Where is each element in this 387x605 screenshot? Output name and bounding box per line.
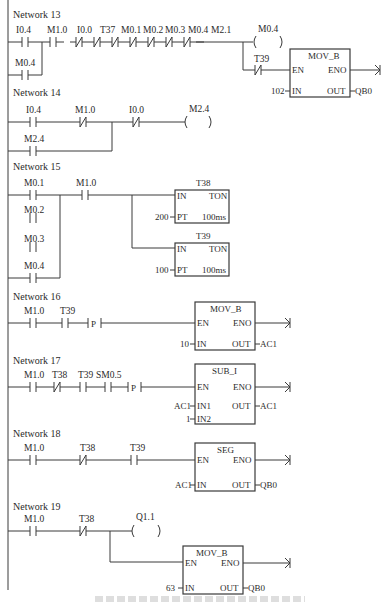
contact-no: T39: [78, 370, 94, 392]
contact-no: T39: [60, 306, 76, 328]
contact-nc: I0.0: [76, 25, 92, 47]
svg-text:IN: IN: [197, 339, 207, 349]
contact-no: M1.0: [76, 178, 97, 200]
coil: M2.4: [185, 104, 211, 128]
svg-text:QB0: QB0: [260, 480, 278, 490]
network-title: Network 17: [13, 355, 61, 366]
svg-text:SM0.5: SM0.5: [96, 370, 122, 380]
contact-no: M1.0: [24, 443, 45, 465]
svg-text:AC1: AC1: [174, 401, 191, 411]
timer-t38: T38 IN TON PT 100ms 200: [155, 178, 229, 223]
contact-no: M1.0: [24, 514, 45, 536]
svg-text:M0.1: M0.1: [24, 178, 45, 188]
svg-text:SUB_I: SUB_I: [212, 366, 237, 376]
svg-text:M1.0: M1.0: [24, 443, 45, 453]
svg-text:TON: TON: [209, 244, 228, 254]
svg-text:IN1: IN1: [197, 401, 211, 411]
contact-nc: T38: [52, 370, 68, 392]
contact-no: M0.4: [24, 261, 45, 283]
svg-text:I0.0: I0.0: [77, 25, 92, 35]
svg-text:M0.1: M0.1: [121, 25, 142, 35]
svg-text:M0.4: M0.4: [15, 58, 36, 68]
network-title: Network 15: [13, 161, 61, 172]
svg-text:T38: T38: [80, 443, 96, 453]
network-13: Network 13 I0.4 M0.4 M1.0 I0.0 T37: [8, 9, 380, 97]
svg-text:I0.4: I0.4: [26, 105, 41, 115]
svg-text:63: 63: [166, 583, 176, 593]
function-block-seg: SEG EN ENO IN OUT AC1 QB0: [175, 443, 290, 491]
svg-text:102: 102: [271, 86, 285, 96]
svg-text:M0.3: M0.3: [24, 234, 45, 244]
svg-text:M1.0: M1.0: [76, 178, 97, 188]
contact-nc: I0.0: [129, 105, 144, 127]
svg-text:OUT: OUT: [220, 583, 239, 593]
svg-text:ENO: ENO: [221, 558, 240, 568]
network-14: Network 14 I0.4 M1.0 I0.0 M2.4 M2.4: [8, 87, 211, 156]
network-title: Network 18: [13, 428, 61, 439]
svg-text:AC1: AC1: [260, 401, 277, 411]
network-title: Network 16: [13, 291, 61, 302]
coil: M0.4: [196, 24, 282, 48]
svg-text:200: 200: [155, 212, 169, 222]
svg-text:EN: EN: [197, 455, 209, 465]
svg-text:TON: TON: [209, 191, 228, 201]
svg-text:Q1.1: Q1.1: [136, 512, 155, 522]
svg-text:IN: IN: [177, 191, 187, 201]
svg-text:M1.0: M1.0: [75, 105, 96, 115]
svg-text:T37: T37: [100, 25, 116, 35]
contact-nc: T39: [254, 54, 270, 75]
contact-no: M0.4: [15, 58, 36, 80]
svg-text:EN: EN: [185, 558, 197, 568]
contact-no: M2.4: [24, 134, 45, 156]
function-block-sub-i: SUB_I EN ENO IN1 IN2 OUT AC1 1 AC1: [174, 364, 290, 424]
contact-no: M0.2: [24, 205, 45, 223]
svg-text:OUT: OUT: [327, 86, 346, 96]
contact-no: M0.3: [24, 234, 45, 252]
timer-t39: T39 IN TON PT 100ms 100: [155, 231, 229, 276]
svg-text:ENO: ENO: [328, 65, 347, 75]
contact-no: M1.0: [24, 370, 45, 392]
contact-no: SM0.5: [96, 370, 122, 392]
contact-no: I0.4: [16, 25, 31, 47]
contact-nc: T38: [79, 514, 95, 536]
svg-text:M0.4: M0.4: [24, 261, 45, 271]
svg-text:OUT: OUT: [232, 339, 251, 349]
svg-text:M0.2: M0.2: [143, 25, 164, 35]
svg-text:10: 10: [180, 339, 190, 349]
svg-text:M1.0: M1.0: [24, 514, 45, 524]
svg-text:M0.3: M0.3: [165, 25, 186, 35]
svg-text:1: 1: [186, 414, 191, 424]
network-title: Network 14: [13, 87, 61, 98]
contact-nc: M1.0: [75, 105, 96, 127]
edge-p: P: [128, 382, 141, 393]
svg-text:M2.1: M2.1: [211, 25, 232, 35]
svg-text:T39: T39: [60, 306, 76, 316]
network-17: Network 17 M1.0 T38 T39 SM0.5 P SUB_I EN…: [8, 355, 290, 424]
svg-text:EN: EN: [197, 318, 209, 328]
svg-text:M2.4: M2.4: [24, 134, 45, 144]
network-title: Network 13: [13, 9, 61, 20]
svg-text:I0.0: I0.0: [129, 105, 144, 115]
svg-text:MOV_B: MOV_B: [308, 51, 340, 61]
svg-text:PT: PT: [177, 265, 188, 275]
coil: Q1.1: [132, 512, 160, 537]
svg-text:100: 100: [155, 265, 169, 275]
svg-text:T39: T39: [254, 54, 270, 64]
function-block-mov-b: MOV_B EN ENO IN OUT 10 AC1: [180, 302, 290, 350]
edge-p: P: [88, 318, 101, 329]
svg-text:ENO: ENO: [233, 318, 252, 328]
svg-text:IN: IN: [177, 244, 187, 254]
svg-text:SEG: SEG: [217, 445, 235, 455]
svg-text:100ms: 100ms: [202, 265, 227, 275]
svg-text:M1.0: M1.0: [24, 306, 45, 316]
svg-text:M0.4: M0.4: [258, 24, 279, 34]
svg-text:IN2: IN2: [197, 414, 211, 424]
svg-text:T38: T38: [79, 514, 95, 524]
contact-no: M1.0: [24, 306, 45, 328]
svg-text:P: P: [91, 319, 96, 329]
svg-text:IN: IN: [197, 480, 207, 490]
network-19: Network 19 M1.0 T38 Q1.1 MOV_B EN ENO IN…: [8, 501, 290, 594]
network-title: Network 19: [13, 501, 61, 512]
contact-nc: T38: [80, 443, 96, 465]
svg-text:T38: T38: [196, 178, 211, 188]
